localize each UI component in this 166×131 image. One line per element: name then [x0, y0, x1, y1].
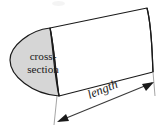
cross-section-label-line1: cross-: [30, 50, 57, 62]
dimension-arrowhead-left: [57, 114, 69, 122]
figure-container: cross- section length: [0, 0, 166, 131]
dimension-extension-line-left: [54, 96, 57, 125]
cross-section-label-line2: section: [27, 63, 59, 75]
prism-diagram-svg: cross- section length: [0, 0, 166, 131]
dimension-arrowhead-right: [142, 82, 154, 91]
dimension-extension-line-right: [153, 72, 155, 96]
